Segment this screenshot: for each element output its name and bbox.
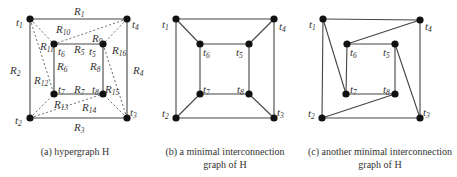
edge-t3-t8 <box>249 94 274 118</box>
node-label-t8: t8 <box>237 83 244 97</box>
node-label-t1: t1 <box>16 16 23 30</box>
node-label-t4: t4 <box>425 20 432 34</box>
node-t2 <box>172 114 179 121</box>
panel-hypergraph-h: t1t4t2t3t6t5t7t8R1R2R3R4R5R6R7R8R9R10R11… <box>9 5 144 135</box>
node-t2 <box>26 114 33 121</box>
edge-label-R10: R10 <box>55 23 70 37</box>
node-t1 <box>26 15 33 22</box>
hyperedge-t4-t5 <box>103 19 127 44</box>
node-label-t7: t7 <box>58 83 65 97</box>
edge-label-R13: R13 <box>53 98 68 112</box>
node-t4 <box>270 15 277 22</box>
node-t4 <box>416 16 423 23</box>
edge-label-R7: R7 <box>73 83 85 97</box>
node-label-t4: t4 <box>132 18 139 32</box>
node-t8 <box>391 90 398 97</box>
edge-t1-t7 <box>323 19 346 94</box>
node-t7 <box>342 90 349 97</box>
node-label-t7: t7 <box>203 83 210 97</box>
node-t8 <box>245 90 252 97</box>
caption-a-line1: (a) hypergraph H <box>0 145 150 158</box>
node-label-t5: t5 <box>383 46 390 60</box>
node-t1 <box>319 15 326 22</box>
node-label-t3: t3 <box>423 106 430 120</box>
edge-t1-t4 <box>323 19 420 20</box>
edge-label-R5: R5 <box>73 43 85 57</box>
node-label-t3: t3 <box>277 106 284 120</box>
edge-label-R1: R1 <box>73 5 84 19</box>
caption-c-line2: graph of H <box>300 158 457 171</box>
caption-b-line1: (b) a minimal interconnection <box>150 145 300 158</box>
edge-label-R16: R16 <box>111 44 126 58</box>
edge-label-R14: R14 <box>81 101 96 115</box>
edge-label-R9: R9 <box>91 32 103 46</box>
node-t7 <box>50 90 57 97</box>
node-label-t2: t2 <box>15 114 22 128</box>
node-label-t1: t1 <box>309 18 316 32</box>
edge-t2-t1 <box>322 19 323 118</box>
edge-label-R15: R15 <box>104 83 119 97</box>
caption-c: (c) another minimal interconnection grap… <box>300 145 457 171</box>
edge-label-R12: R12 <box>33 74 48 88</box>
node-label-t8: t8 <box>92 83 99 97</box>
hyperedge-t3-t8 <box>103 94 127 118</box>
node-label-t8: t8 <box>383 83 390 97</box>
caption-b: (b) a minimal interconnection graph of H <box>150 145 300 171</box>
node-label-t6: t6 <box>350 46 357 60</box>
edge-label-R2: R2 <box>9 64 21 78</box>
node-t5 <box>391 40 398 47</box>
panel-minimal-interconnection-graph: t1t4t2t3t6t5t7t8 <box>162 15 286 121</box>
edge-label-R3: R3 <box>73 121 85 135</box>
edge-t5-t3 <box>395 44 420 118</box>
node-label-t5: t5 <box>89 45 96 59</box>
hyperedge-t2-t7 <box>30 94 54 118</box>
caption-c-line1: (c) another minimal interconnection <box>300 145 457 158</box>
edge-t4-t6 <box>347 20 420 44</box>
node-t5 <box>245 40 252 47</box>
node-t4 <box>123 15 130 22</box>
edge-label-R6: R6 <box>56 60 68 74</box>
caption-b-line2: graph of H <box>150 158 300 171</box>
node-label-t4: t4 <box>279 20 286 34</box>
node-t2 <box>318 114 325 121</box>
node-label-t1: t1 <box>162 18 169 32</box>
edge-label-R4: R4 <box>132 64 144 78</box>
caption-a: (a) hypergraph H <box>0 145 150 158</box>
node-label-t7: t7 <box>350 83 357 97</box>
edge-t7-t6 <box>346 44 347 94</box>
node-label-t2: t2 <box>308 107 315 121</box>
edge-label-R8: R8 <box>89 60 101 74</box>
node-label-t6: t6 <box>58 45 65 59</box>
node-label-t5: t5 <box>236 46 243 60</box>
edge-t8-t2 <box>322 94 395 118</box>
edge-t2-t7 <box>176 94 200 118</box>
node-label-t6: t6 <box>203 46 210 60</box>
edge-t4-t5 <box>249 19 274 44</box>
edge-t1-t6 <box>176 19 200 44</box>
node-t1 <box>172 15 179 22</box>
node-label-t3: t3 <box>130 106 137 120</box>
node-label-t2: t2 <box>162 107 169 121</box>
panel-another-minimal-interconnection-graph: t1t4t2t3t6t5t7t8 <box>308 15 432 121</box>
